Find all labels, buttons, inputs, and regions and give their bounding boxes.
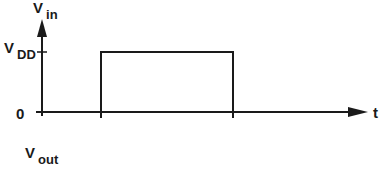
vout-label: Vout [25,145,58,160]
zero-label: 0 [16,106,24,121]
input-pulse [101,52,233,118]
vdd-label-main: V [4,39,14,56]
t-label: t [373,105,378,120]
vin-label-sub: in [46,7,58,22]
vin-label-main: V [33,0,43,16]
vdd-label: VDD [4,40,36,55]
x-axis-arrowhead-icon [348,107,368,117]
vdd-label-sub: DD [17,47,36,62]
vout-label-sub: out [38,152,58,167]
vin-label: Vin [33,0,58,15]
vout-label-main: V [25,144,35,161]
